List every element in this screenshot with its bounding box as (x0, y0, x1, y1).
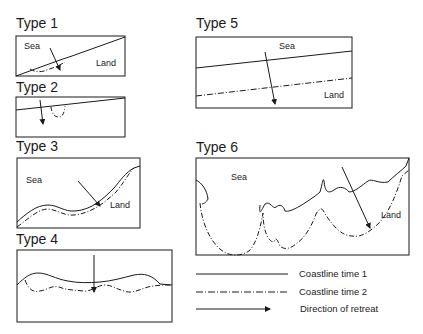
legend-graphics (196, 274, 288, 309)
retreat-arrow (78, 181, 100, 206)
panel-title-type-5: Type 5 (196, 16, 238, 30)
coastline-time-2 (200, 170, 409, 255)
panel-type-6-figure (196, 158, 409, 255)
panel-frame (16, 97, 125, 137)
legend-label-coastline-time-2: Coastline time 2 (299, 287, 367, 297)
panel-title-type-3: Type 3 (16, 139, 58, 153)
coastline-time-1 (16, 98, 125, 110)
panel-title-type-4: Type 4 (16, 232, 58, 246)
panel-title-type-6: Type 6 (196, 140, 238, 154)
panel-frame (196, 158, 409, 255)
label-land: Land (110, 201, 130, 210)
label-sea: Sea (279, 42, 295, 51)
legend-label-coastline-time-1: Coastline time 1 (299, 269, 367, 279)
retreat-arrow (40, 100, 43, 124)
diagram-canvas (0, 0, 423, 334)
panel-type-3-figure (17, 158, 140, 228)
panel-frame (17, 158, 140, 228)
legend-label-direction-of-retreat: Direction of retreat (300, 304, 378, 314)
panel-type-2-figure (16, 97, 125, 137)
label-land: Land (96, 59, 116, 68)
coastline-time-1 (196, 51, 352, 68)
panel-type-4-figure (17, 250, 172, 322)
panel-title-type-1: Type 1 (16, 16, 58, 30)
retreat-arrow (50, 48, 60, 70)
label-sea: Sea (26, 176, 42, 185)
label-sea: Sea (231, 173, 247, 182)
label-land: Land (381, 211, 401, 220)
coastline-time-2 (51, 106, 65, 117)
coastline-time-1 (196, 158, 409, 212)
label-land: Land (324, 91, 344, 100)
label-sea: Sea (24, 42, 40, 51)
panel-title-type-2: Type 2 (16, 80, 58, 94)
coastline-time-2 (30, 62, 65, 72)
retreat-arrow (342, 167, 370, 228)
